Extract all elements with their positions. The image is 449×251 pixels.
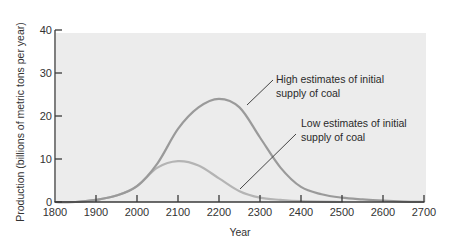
x-tick-label: 2600 [371, 206, 395, 218]
x-tick-label: 2100 [166, 206, 190, 218]
low-estimate-label-line2: supply of coal [301, 131, 365, 143]
x-tick-label: 2000 [125, 206, 149, 218]
x-tick-label: 1800 [43, 206, 67, 218]
y-tick-label: 10 [40, 153, 52, 165]
x-axis-title: Year [229, 226, 251, 238]
x-tick-label: 2400 [289, 206, 313, 218]
x-tick-label: 2200 [207, 206, 231, 218]
y-tick-label: 30 [40, 67, 52, 79]
y-tick-label: 40 [40, 24, 52, 36]
high-estimate-label-line1: High estimates of initial [276, 73, 384, 85]
x-tick-label: 1900 [84, 206, 108, 218]
coal-production-chart: 0102030401800190020002100220023002400250… [0, 0, 449, 251]
x-tick-label: 2500 [330, 206, 354, 218]
high-estimate-label-line2: supply of coal [276, 87, 340, 99]
x-tick-label: 2300 [248, 206, 272, 218]
low-estimate-label-line1: Low estimates of initial [301, 117, 407, 129]
y-axis-title: Production (billions of metric tons per … [14, 22, 26, 222]
y-tick-label: 20 [40, 110, 52, 122]
x-tick-label: 2700 [412, 206, 436, 218]
